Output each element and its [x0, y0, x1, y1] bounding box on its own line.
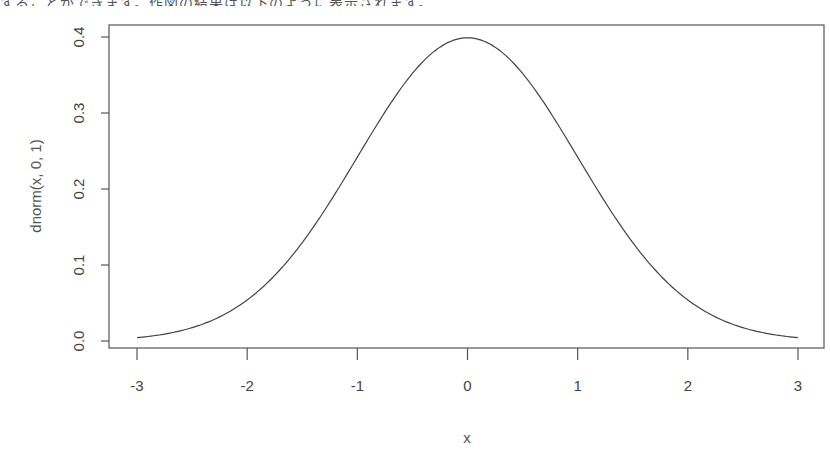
x-tick-label: 2	[684, 377, 692, 394]
x-tick-label: 1	[573, 377, 581, 394]
x-tick-label: -3	[130, 377, 143, 394]
x-tick-label: -2	[240, 377, 253, 394]
y-tick-label: 0.0	[70, 331, 87, 352]
x-tick-label: 3	[794, 377, 802, 394]
y-tick-label: 0.4	[70, 27, 87, 48]
y-tick-label: 0.3	[70, 103, 87, 124]
y-axis: 0.00.10.20.30.4	[70, 27, 109, 352]
density-plot: 0.00.10.20.30.4 -3-2-10123 x dnorm(x, 0,…	[0, 0, 830, 456]
y-axis-title: dnorm(x, 0, 1)	[27, 139, 44, 232]
y-tick-label: 0.2	[70, 179, 87, 200]
density-curve	[137, 38, 798, 338]
x-tick-label: -1	[351, 377, 364, 394]
x-axis-title: x	[463, 429, 471, 446]
x-tick-label: 0	[463, 377, 471, 394]
x-axis: -3-2-10123	[130, 348, 802, 394]
y-tick-label: 0.1	[70, 255, 87, 276]
plot-frame	[109, 25, 824, 348]
